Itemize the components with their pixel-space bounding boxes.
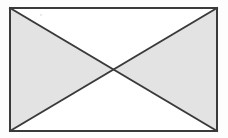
scan-speck xyxy=(40,14,42,16)
figure-canvas: Rectangle outlined in dark gray containi… xyxy=(0,0,228,138)
rectangle-diagonals-svg xyxy=(0,0,228,138)
